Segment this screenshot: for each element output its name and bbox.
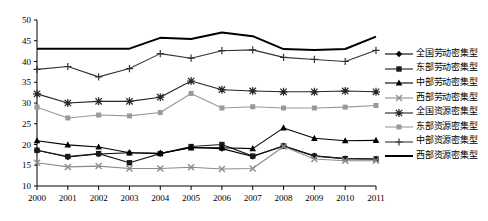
marker-square: [96, 151, 101, 156]
legend-item-2[interactable]: 东部劳动密集型: [384, 60, 488, 75]
series-6: [35, 91, 379, 120]
marker-plus: [95, 73, 102, 80]
series-2: [34, 142, 378, 166]
y-tick-label: 10: [22, 181, 32, 191]
legend-label: 东部资源密集型: [416, 119, 478, 132]
legend-marker-gray-square-icon: [384, 119, 414, 131]
x-tick-label: 2004: [151, 193, 170, 203]
y-tick-label: 35: [22, 77, 32, 87]
marker-plus: [218, 47, 225, 54]
x-tick-label: 2008: [275, 193, 294, 203]
x-tick-label: 2002: [90, 193, 108, 203]
legend-marker-star-icon: [384, 105, 414, 117]
x-tick-label: 2006: [213, 193, 232, 203]
marker-square: [396, 66, 401, 71]
series-line: [37, 147, 376, 169]
marker-star: [156, 93, 164, 101]
chart-container: 1015202530354045502000200120022003200420…: [0, 0, 488, 221]
y-tick-label: 20: [22, 140, 32, 150]
marker-star: [280, 88, 288, 96]
marker-gray-square: [397, 125, 402, 130]
marker-diamond: [396, 51, 402, 57]
marker-star: [33, 90, 41, 98]
legend-marker-diamond-icon: [384, 46, 414, 58]
marker-triangle: [34, 137, 41, 143]
legend-label: 西部资源密集型: [416, 148, 478, 161]
y-tick-label: 30: [22, 98, 32, 108]
marker-plus: [342, 58, 349, 65]
marker-plus: [280, 54, 287, 61]
marker-plus: [33, 66, 40, 73]
series-5: [33, 77, 380, 107]
series-line: [37, 50, 376, 77]
marker-star: [187, 77, 195, 85]
marker-star: [395, 109, 403, 117]
chart-legend: 全国劳动密集型东部劳动密集型中部劳动密集型西部劳动密集型全国资源密集型东部资源密…: [384, 45, 488, 162]
x-tick-label: 2005: [182, 193, 201, 203]
legend-label: 中部资源密集型: [416, 133, 478, 146]
x-tick-label: 2000: [28, 193, 47, 203]
marker-square: [34, 148, 39, 153]
marker-plus: [311, 56, 318, 63]
marker-gray-square: [96, 113, 101, 118]
legend-item-4[interactable]: 西部劳动密集型: [384, 89, 488, 104]
legend-marker-triangle-icon: [384, 75, 414, 87]
marker-square: [127, 160, 132, 165]
marker-square: [250, 153, 255, 158]
marker-star: [64, 99, 72, 107]
marker-star: [125, 97, 133, 105]
marker-plus: [249, 46, 256, 53]
legend-label: 中部劳动密集型: [416, 75, 478, 88]
marker-gray-square: [343, 105, 348, 110]
legend-label: 西部劳动密集型: [416, 90, 478, 103]
legend-marker-line-icon: [384, 148, 414, 160]
marker-plus: [395, 138, 402, 145]
marker-gray-square: [219, 105, 224, 110]
y-tick-label: 15: [22, 160, 32, 170]
legend-marker-square-icon: [384, 61, 414, 73]
series-3: [34, 124, 380, 156]
x-tick-label: 2011: [367, 193, 385, 203]
marker-gray-square: [35, 105, 40, 110]
marker-triangle: [280, 124, 287, 130]
series-line: [37, 81, 376, 103]
legend-label: 东部劳动密集型: [416, 60, 478, 73]
y-tick-label: 40: [22, 57, 32, 67]
x-tick-label: 2003: [120, 193, 139, 203]
marker-gray-square: [312, 105, 317, 110]
legend-label: 全国资源密集型: [416, 104, 478, 117]
y-tick-label: 45: [22, 36, 32, 46]
x-tick-label: 2009: [305, 193, 324, 203]
marker-square: [65, 154, 70, 159]
y-tick-label: 50: [22, 15, 32, 25]
marker-plus: [126, 65, 133, 72]
series-line: [37, 32, 376, 49]
marker-plus: [157, 50, 164, 57]
series-line: [37, 128, 376, 153]
marker-plus: [187, 55, 194, 62]
marker-star: [372, 88, 380, 96]
marker-star: [218, 86, 226, 94]
marker-gray-square: [127, 113, 132, 118]
series-8: [37, 32, 376, 49]
legend-item-6[interactable]: 东部资源密集型: [384, 118, 488, 133]
x-tick-label: 2010: [336, 193, 355, 203]
series-line: [37, 93, 376, 117]
marker-plus: [64, 63, 71, 70]
marker-gray-square: [65, 115, 70, 120]
marker-plus: [372, 47, 379, 54]
series-7: [33, 46, 379, 80]
legend-item-7[interactable]: 中部资源密集型: [384, 133, 488, 148]
legend-item-3[interactable]: 中部劳动密集型: [384, 74, 488, 89]
marker-star: [341, 87, 349, 95]
marker-gray-square: [281, 105, 286, 110]
legend-item-5[interactable]: 全国资源密集型: [384, 103, 488, 118]
marker-star: [249, 87, 257, 95]
marker-star: [95, 97, 103, 105]
legend-item-8[interactable]: 西部资源密集型: [384, 147, 488, 162]
marker-gray-square: [189, 91, 194, 96]
marker-gray-square: [250, 104, 255, 109]
legend-marker-x-icon: [384, 90, 414, 102]
marker-gray-square: [374, 103, 379, 108]
legend-item-1[interactable]: 全国劳动密集型: [384, 45, 488, 60]
